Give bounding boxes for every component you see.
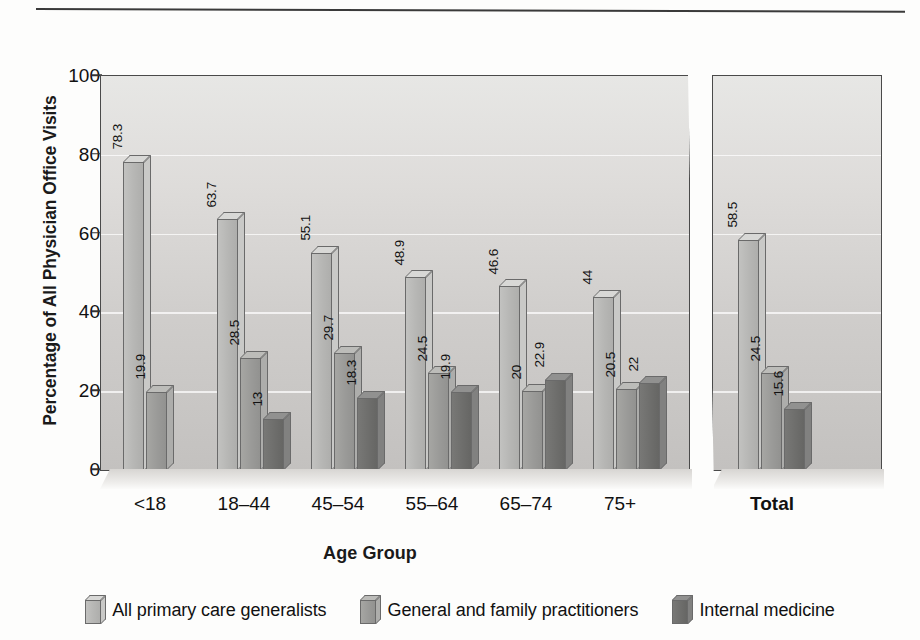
x-axis-group-label: Total bbox=[750, 493, 794, 515]
x-axis-group-label: 75+ bbox=[604, 493, 636, 515]
bar-front-face bbox=[522, 391, 543, 470]
bar-value-label: 44 bbox=[581, 270, 595, 285]
bar-value-label: 28.5 bbox=[228, 320, 242, 345]
bar-value-label: 29.7 bbox=[322, 316, 336, 341]
bar bbox=[784, 409, 805, 470]
legend-item[interactable]: General and family practitioners bbox=[360, 596, 638, 624]
gridline bbox=[101, 234, 689, 236]
legend-label: General and family practitioners bbox=[387, 600, 638, 621]
bar-front-face bbox=[593, 297, 614, 470]
plot-floor-main bbox=[100, 469, 692, 489]
x-axis-title: Age Group bbox=[0, 543, 740, 564]
bar-value-label: 63.7 bbox=[205, 182, 219, 207]
bar-value-label: 19.9 bbox=[134, 354, 148, 379]
swatch-side-face bbox=[101, 595, 106, 624]
legend-swatch-icon bbox=[85, 600, 101, 624]
bar bbox=[405, 277, 426, 470]
bar-front-face bbox=[146, 392, 167, 470]
bar-side-face bbox=[660, 376, 667, 470]
swatch-side-face bbox=[688, 595, 693, 624]
x-axis-group-label: 45–54 bbox=[312, 493, 365, 515]
bar-value-label: 58.5 bbox=[726, 202, 740, 227]
bar bbox=[123, 162, 144, 471]
bar-front-face bbox=[357, 398, 378, 470]
bar-value-label: 19.9 bbox=[439, 354, 453, 379]
bar-front-face bbox=[263, 419, 284, 470]
bar bbox=[240, 358, 261, 470]
gridline bbox=[713, 234, 881, 236]
bar-side-face bbox=[805, 402, 812, 470]
bar-side-face bbox=[284, 412, 291, 470]
bar-value-label: 22.9 bbox=[533, 342, 547, 367]
bar bbox=[593, 297, 614, 470]
bar-value-label: 20.5 bbox=[604, 352, 618, 377]
bar bbox=[357, 398, 378, 470]
bar bbox=[522, 391, 543, 470]
bar-value-label: 48.9 bbox=[393, 240, 407, 265]
bar-front-face bbox=[123, 162, 144, 471]
bar-value-label: 18.3 bbox=[345, 360, 359, 385]
bar bbox=[616, 389, 637, 470]
legend-item[interactable]: All primary care generalists bbox=[85, 596, 326, 624]
top-rule-divider bbox=[36, 8, 905, 13]
gridline bbox=[713, 155, 881, 157]
bar bbox=[146, 392, 167, 470]
plot-area-main: 78.319.963.728.51355.129.718.348.924.519… bbox=[100, 75, 690, 471]
bar-value-label: 20 bbox=[510, 365, 524, 380]
legend-label: All primary care generalists bbox=[112, 600, 326, 621]
x-axis-group-label: 65–74 bbox=[500, 493, 553, 515]
bar-front-face bbox=[784, 409, 805, 470]
bar-value-label: 15.6 bbox=[772, 371, 786, 396]
bar-value-label: 46.6 bbox=[487, 249, 501, 274]
legend-swatch-icon bbox=[360, 600, 376, 624]
bar-front-face bbox=[616, 389, 637, 470]
bar-value-label: 24.5 bbox=[416, 336, 430, 361]
bar bbox=[451, 392, 472, 470]
swatch-front-face bbox=[360, 600, 376, 624]
bar-front-face bbox=[428, 373, 449, 470]
bar bbox=[545, 380, 566, 470]
chart-figure: Percentage of All Physician Office Visit… bbox=[0, 0, 920, 640]
bar-front-face bbox=[405, 277, 426, 470]
bar-side-face bbox=[167, 385, 174, 470]
bar-front-face bbox=[451, 392, 472, 470]
swatch-side-face bbox=[376, 595, 381, 624]
bar-value-label: 78.3 bbox=[111, 124, 125, 149]
bar bbox=[311, 253, 332, 470]
x-axis-group-label: 18–44 bbox=[218, 493, 271, 515]
bar bbox=[263, 419, 284, 470]
swatch-front-face bbox=[85, 600, 101, 624]
bar-front-face bbox=[639, 383, 660, 470]
bar-side-face bbox=[378, 391, 385, 470]
plot-floor-total bbox=[712, 469, 884, 489]
bar bbox=[639, 383, 660, 470]
bar-value-label: 22 bbox=[627, 357, 641, 372]
bar-front-face bbox=[311, 253, 332, 470]
bar-value-label: 55.1 bbox=[299, 215, 313, 240]
legend-swatch-icon bbox=[672, 600, 688, 624]
legend: All primary care generalistsGeneral and … bbox=[0, 590, 920, 630]
bar bbox=[428, 373, 449, 470]
swatch-front-face bbox=[672, 600, 688, 624]
bar-value-label: 13 bbox=[251, 392, 265, 407]
axis-break bbox=[688, 75, 714, 490]
legend-label: Internal medicine bbox=[699, 600, 834, 621]
x-axis-group-label: 55–64 bbox=[406, 493, 459, 515]
x-axis-group-label: <18 bbox=[134, 493, 166, 515]
legend-item[interactable]: Internal medicine bbox=[672, 596, 834, 624]
plot-area-total: 58.524.515.6 bbox=[712, 75, 882, 471]
bar-side-face bbox=[472, 385, 479, 470]
bar-front-face bbox=[545, 380, 566, 470]
bar-value-label: 24.5 bbox=[749, 336, 763, 361]
bar-front-face bbox=[240, 358, 261, 470]
bar-side-face bbox=[566, 373, 573, 470]
gridline bbox=[101, 155, 689, 157]
